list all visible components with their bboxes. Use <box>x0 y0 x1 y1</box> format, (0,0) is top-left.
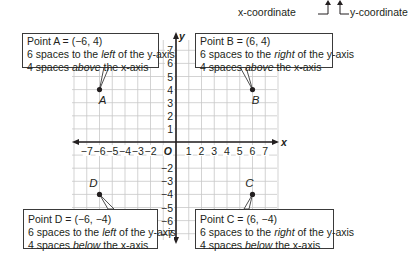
y-tick-label: 5 <box>167 71 173 83</box>
x-tick-label: 4 <box>224 145 230 157</box>
point-b <box>250 87 255 92</box>
callout-title: Point B = (6, 4) <box>200 35 328 48</box>
callout-point-a: Point A = (−6, 4) 6 spaces to the left o… <box>22 33 159 68</box>
callout-line: 4 spaces below the x-axis <box>200 239 329 252</box>
x-tick-label: −7 <box>81 145 93 157</box>
x-tick-label: 6 <box>250 145 256 157</box>
callout-line: 6 spaces to the left of the y-axis <box>28 226 153 239</box>
y-tick-label: 4 <box>167 84 173 96</box>
x-tick-label: 3 <box>211 145 217 157</box>
point-a <box>97 87 102 92</box>
origin-label: O <box>164 145 172 157</box>
x-tick-label: 5 <box>237 145 243 157</box>
callout-title: Point A = (−6, 4) <box>27 35 154 48</box>
callout-title: Point D = (−6, −4) <box>28 213 153 226</box>
y-tick-label: 3 <box>167 97 173 109</box>
callout-line: 6 spaces to the left of the y-axis <box>27 48 154 61</box>
x-axis-label: x <box>280 136 288 148</box>
y-tick-label: −3 <box>161 175 173 187</box>
x-tick-label: −2 <box>145 145 157 157</box>
point-label-a: A <box>98 94 107 106</box>
y-tick-label: 2 <box>167 110 173 122</box>
coordinate-arrows <box>318 0 349 14</box>
callout-line: 6 spaces to the right of the y-axis <box>200 48 328 61</box>
x-axis-left-arrow-icon <box>72 139 79 145</box>
x-tick-label: 7 <box>262 145 268 157</box>
y-tick-label: 1 <box>167 123 173 135</box>
arrow-up-icon <box>325 0 331 5</box>
point-c <box>250 192 255 197</box>
y-tick-label: −2 <box>161 162 173 174</box>
y-axis-label: y <box>178 30 186 42</box>
y-tick-label: −5 <box>161 202 173 214</box>
x-tick-label: −6 <box>94 145 106 157</box>
callout-leader <box>100 194 115 209</box>
callout-point-d: Point D = (−6, −4) 6 spaces to the left … <box>23 209 158 249</box>
callout-line: 6 spaces to the right of the y-axis <box>200 226 329 239</box>
callout-line: 4 spaces below the x-axis <box>28 239 153 252</box>
x-tick-label: 1 <box>186 145 192 157</box>
point-label-d: D <box>89 177 97 189</box>
x-coordinate-caption: x-coordinate <box>238 6 296 18</box>
x-tick-label: −5 <box>106 145 118 157</box>
point-label-b: B <box>252 94 260 106</box>
y-tick-label: −6 <box>161 215 173 227</box>
callout-point-b: Point B = (6, 4) 6 spaces to the right o… <box>195 33 333 68</box>
arrow-up-icon <box>337 0 343 5</box>
y-tick-label: −4 <box>161 188 173 200</box>
callout-line: 4 spaces above the x-axis <box>200 61 328 74</box>
callout-title: Point C = (6, −4) <box>200 213 329 226</box>
point-d <box>97 192 102 197</box>
callout-line: 4 spaces above the x-axis <box>27 61 154 74</box>
x-tick-label: −4 <box>119 145 131 157</box>
callout-point-c: Point C = (6, −4) 6 spaces to the right … <box>195 209 334 249</box>
y-coordinate-caption: y-coordinate <box>350 6 408 18</box>
point-label-c: C <box>245 177 254 189</box>
x-tick-label: −3 <box>132 145 144 157</box>
x-tick-label: 2 <box>199 145 205 157</box>
